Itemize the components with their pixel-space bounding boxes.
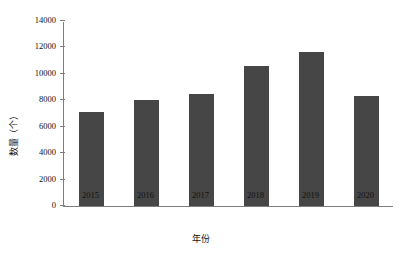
x-tick-label: 2016 (137, 190, 154, 201)
y-tick-label: 2000 (39, 174, 56, 185)
bar-chart-figure: 数量（个） 02000400060008000100001200014000 2… (0, 0, 401, 266)
y-tick-label: 0 (52, 200, 56, 211)
x-tick-label: 2015 (82, 190, 99, 201)
y-tick-label: 8000 (39, 94, 56, 105)
y-tick-label: 4000 (39, 147, 56, 158)
x-tick-label: 2017 (192, 190, 209, 201)
y-axis-title: 数量（个） (2, 0, 24, 266)
y-tick-label: 6000 (39, 121, 56, 132)
x-tick-label: 2019 (302, 190, 319, 201)
bars-layer (64, 22, 393, 206)
plot-area: 02000400060008000100001200014000 (63, 22, 393, 207)
x-tick-label: 2018 (247, 190, 264, 201)
y-axis-title-label: 数量（个） (7, 111, 20, 156)
y-tick-label: 12000 (35, 41, 56, 52)
y-tick-label: 14000 (35, 15, 56, 26)
y-tick-label: 10000 (35, 68, 56, 79)
x-axis-title: 年份 (0, 232, 401, 245)
y-tick-mark (60, 20, 65, 21)
bar (244, 66, 269, 206)
bar (299, 52, 324, 206)
x-tick-label: 2020 (357, 190, 374, 201)
